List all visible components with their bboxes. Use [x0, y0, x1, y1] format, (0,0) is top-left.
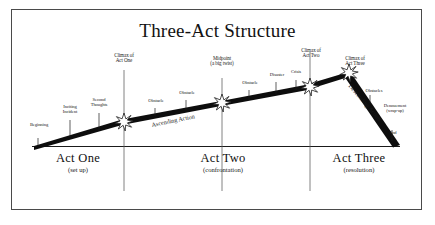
- beat-label-denouement: Denouement (wrap-up): [372, 104, 418, 113]
- beat-label-climax-act-one: Climax of Act One: [100, 53, 148, 63]
- act-label-one: Act One (set up): [18, 152, 138, 173]
- diagram-canvas: Three-Act Structure: [0, 0, 435, 225]
- act-name: Act Three: [299, 152, 419, 165]
- beat-label-second-thoughts: Second Thoughts: [77, 98, 121, 107]
- beat-label-obstacle-1: Obstacle: [136, 99, 176, 104]
- act-subtitle: (set up): [18, 166, 138, 173]
- beat-label-climax-act-three: Climax of Act Three: [330, 56, 380, 66]
- act-subtitle: (resolution): [299, 166, 419, 173]
- beat-label-obstacle-3: Obstacle: [230, 81, 270, 86]
- starburst-climax-act-one: [115, 113, 133, 131]
- beat-label-line2: Act Two: [287, 53, 335, 58]
- beat-label-beginning: Beginning: [16, 123, 62, 128]
- beat-label-line2: Thoughts: [77, 103, 121, 108]
- act-name: Act One: [18, 152, 138, 165]
- beat-label-obstacle-2: Obstacle: [167, 91, 207, 96]
- beat-label-midpoint: Midpoint (a big twist): [196, 56, 248, 66]
- beat-label-crisis: Crisis: [281, 70, 311, 75]
- beat-label-line2: Act Three: [330, 61, 380, 66]
- act-label-two: Act Two (confrontation): [163, 152, 283, 173]
- beat-label-line2: (wrap-up): [372, 109, 418, 114]
- beat-label-line2: Incident: [48, 110, 92, 115]
- beat-label-line2: Act One: [100, 58, 148, 63]
- starburst-climax-act-three: [340, 64, 358, 82]
- beat-label-end: End: [382, 131, 404, 136]
- beat-label-line2: (a big twist): [196, 61, 248, 66]
- act-name: Act Two: [163, 152, 283, 165]
- starburst-climax-act-two: [301, 78, 319, 96]
- beat-label-climax-act-two: Climax of Act Two: [287, 48, 335, 58]
- starburst-midpoint: [213, 94, 231, 112]
- act-label-three: Act Three (resolution): [299, 152, 419, 173]
- act-subtitle: (confrontation): [163, 166, 283, 173]
